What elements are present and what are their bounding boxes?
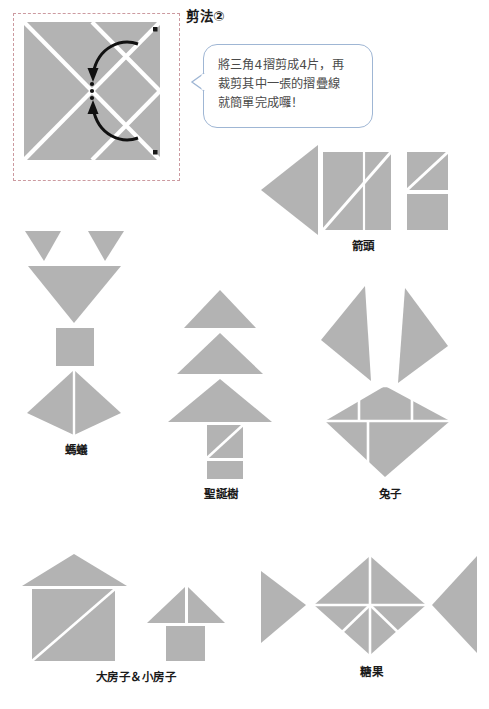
figure-label-arrow: 箭頭	[338, 237, 388, 253]
page-canvas: 剪法② 將三角4摺剪成4片，再 裁剪其中一張的摺疊線	[0, 0, 489, 709]
instruction-bubble-text: 將三角4摺剪成4片，再 裁剪其中一張的摺疊線 就簡單完成囉！	[218, 56, 364, 113]
instruction-bubble-tail	[191, 72, 205, 92]
figure-arrow	[258, 142, 483, 237]
figure-rabbit	[320, 283, 455, 480]
figure-label-candy: 糖果	[349, 663, 394, 679]
corner-dot-top	[153, 27, 158, 32]
instruction-line-3: 就簡單完成囉！	[218, 94, 364, 113]
figure-label-ant: 螞蟻	[51, 441, 101, 457]
figure-ant	[14, 228, 139, 436]
folded-square-cut-diagram	[10, 10, 185, 185]
figure-candy	[258, 553, 480, 658]
instruction-line-2: 裁剪其中一張的摺疊線	[218, 75, 364, 94]
figure-houses	[14, 552, 234, 662]
figure-christmas-tree	[160, 288, 280, 480]
figure-label-christmas-tree: 聖誕樹	[194, 485, 249, 501]
instruction-line-1: 將三角4摺剪成4片，再	[218, 56, 364, 75]
corner-dot-bottom	[153, 150, 158, 155]
instruction-bubble: 將三角4摺剪成4片，再 裁剪其中一張的摺疊線 就簡單完成囉！	[203, 44, 373, 128]
figure-label-houses: 大房子＆小房子	[76, 668, 196, 684]
page-title: 剪法②	[186, 5, 225, 25]
figure-label-rabbit: 兔子	[369, 485, 411, 501]
